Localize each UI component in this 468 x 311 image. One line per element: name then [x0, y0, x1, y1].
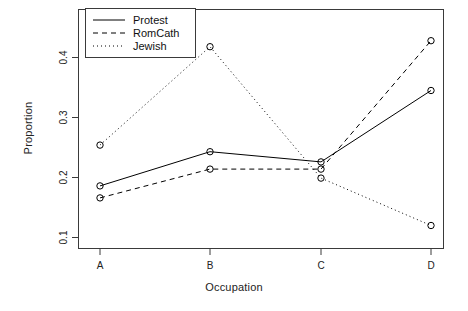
x-tick-label: A	[97, 260, 104, 271]
series-line	[100, 41, 431, 198]
x-tick-label: C	[317, 260, 324, 271]
data-point-marker	[428, 222, 434, 228]
x-axis-title: Occupation	[0, 281, 468, 293]
y-tick-label: 0.3	[58, 110, 69, 124]
series-protest	[97, 87, 434, 189]
data-point-marker	[318, 175, 324, 181]
data-point-marker	[428, 38, 434, 44]
y-tick-label: 0.1	[58, 230, 69, 244]
data-point-marker	[318, 166, 324, 172]
legend-label-jewish: Jewish	[133, 40, 167, 52]
line-chart-canvas: 0.4 0.3 0.2 0.1 A B C D Protest RomC	[0, 0, 468, 311]
series-jewish	[97, 44, 434, 229]
series-romcath	[97, 38, 434, 202]
data-point-marker	[207, 166, 213, 172]
y-axis-ticks	[72, 58, 79, 238]
x-axis-tick-labels: A B C D	[97, 260, 435, 271]
y-tick-label: 0.4	[58, 50, 69, 64]
y-axis-tick-labels: 0.4 0.3 0.2 0.1	[58, 50, 69, 244]
series-line	[100, 47, 431, 226]
y-axis-title: Proportion	[22, 78, 34, 178]
legend-label-protest: Protest	[133, 14, 168, 26]
legend-label-romcath: RomCath	[133, 27, 179, 39]
data-point-marker	[207, 44, 213, 50]
x-tick-label: B	[207, 260, 214, 271]
chart-legend: Protest RomCath Jewish	[86, 9, 196, 58]
data-series-layer	[97, 38, 434, 229]
x-tick-label: D	[427, 260, 434, 271]
x-axis-ticks	[100, 249, 431, 256]
chart-figure: 0.4 0.3 0.2 0.1 A B C D Protest RomC	[0, 0, 468, 311]
series-line	[100, 91, 431, 186]
y-tick-label: 0.2	[58, 170, 69, 184]
